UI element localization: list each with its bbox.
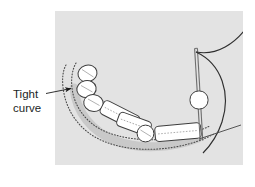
tight-curve-label-line1: Tight bbox=[13, 88, 38, 100]
train-car-7 bbox=[154, 123, 201, 142]
tight-curve-label-line2: curve bbox=[13, 102, 41, 114]
tight-curve-label: Tightcurve bbox=[13, 88, 57, 115]
right-curve-outer bbox=[196, 24, 249, 53]
post-disc bbox=[190, 91, 208, 109]
train-car-6 bbox=[137, 125, 154, 142]
illustration-page: Tightcurve bbox=[0, 0, 255, 187]
